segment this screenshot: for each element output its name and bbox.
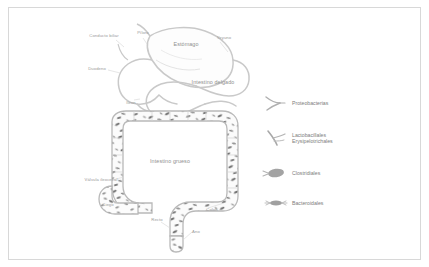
- rectum-shape: [170, 236, 183, 252]
- legend-item-proteobacterias: Proteobacterias: [262, 94, 372, 112]
- esophagus-shape: [137, 24, 150, 36]
- large-intestine-shape: [99, 111, 238, 252]
- legend-item-clostridiales: Clostridiales: [262, 164, 372, 182]
- fimbriated-rod-icon: [262, 194, 288, 212]
- legend-label-proteobacterias: Proteobacterias: [292, 100, 328, 106]
- stomach-shape: [148, 28, 234, 88]
- legend-item-lactobacillales-erysipelotrichales: Lactobacillales Erysipelotrichales: [262, 129, 372, 147]
- flagellated-rod-icon: [262, 94, 288, 112]
- filled-oval-icon: [262, 164, 288, 182]
- legend-label-clostridiales: Clostridiales: [292, 170, 320, 176]
- legend-label-lactobacillales-erysipelotrichales: Lactobacillales Erysipelotrichales: [292, 132, 333, 145]
- legend-item-bacteroidales: Bacteroidales: [262, 194, 372, 212]
- curved-flagellated-rod-icon: [262, 129, 288, 147]
- legend-label-bacteroidales: Bacteroidales: [292, 200, 323, 206]
- microbiota-figure: Conducto biliarPíloroEstómagoYeyunoDuode…: [0, 0, 429, 267]
